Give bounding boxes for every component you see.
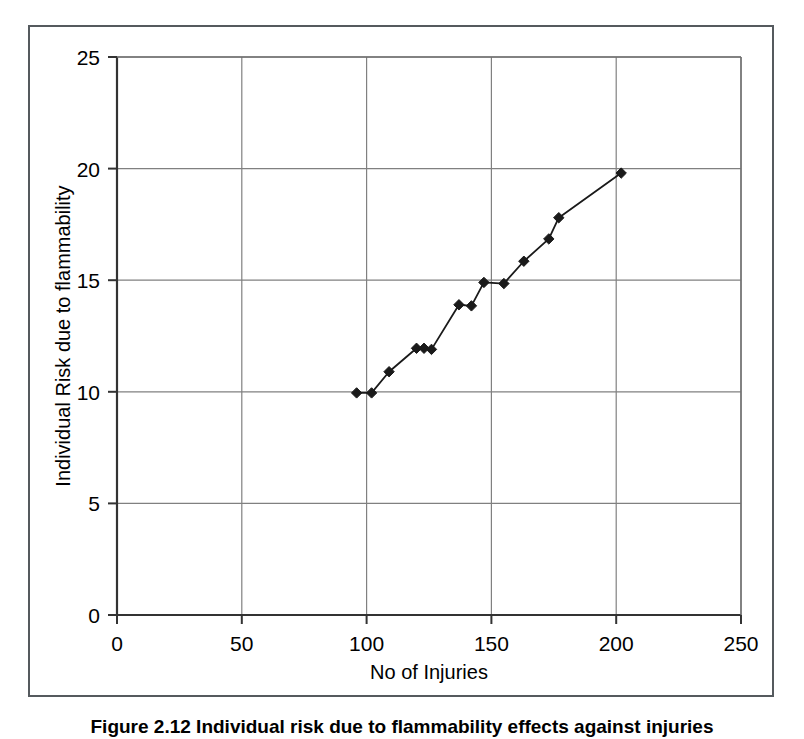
tick-label-y: 10: [77, 381, 100, 404]
tick-label-y: 5: [88, 492, 100, 515]
tick-label-x: 250: [723, 632, 758, 655]
y-axis-label: Individual Risk due to flammability: [52, 185, 74, 486]
data-markers: [351, 168, 626, 398]
figure-caption-text: Figure 2.12 Individual risk due to flamm…: [0, 716, 804, 738]
data-point-marker: [466, 301, 476, 311]
tick-label-x: 100: [349, 632, 384, 655]
axis-lines: [117, 57, 741, 615]
vertical-gridlines: [242, 57, 741, 615]
tick-label-y: 20: [77, 158, 100, 181]
horizontal-gridlines: [117, 57, 741, 503]
data-point-marker: [351, 388, 361, 398]
figure-caption: Figure 2.12 Individual risk due to flamm…: [0, 716, 804, 739]
y-axis-tick-labels: 0510152025: [77, 46, 100, 627]
tick-label-y: 0: [88, 604, 100, 627]
line-chart: 0510152025 050100150200250 Individual Ri…: [0, 0, 804, 739]
chart-figure: 0510152025 050100150200250 Individual Ri…: [0, 0, 804, 739]
tick-label-x: 50: [230, 632, 253, 655]
data-point-marker: [454, 300, 464, 310]
x-axis-tick-labels: 050100150200250: [111, 632, 758, 655]
tick-label-y: 15: [77, 269, 100, 292]
data-point-marker: [479, 277, 489, 287]
y-axis-ticks: [108, 57, 117, 615]
x-axis-ticks: [117, 615, 741, 624]
tick-label-x: 0: [111, 632, 123, 655]
data-point-marker: [426, 344, 436, 354]
tick-label-x: 200: [599, 632, 634, 655]
tick-label-y: 25: [77, 46, 100, 69]
tick-label-x: 150: [474, 632, 509, 655]
x-axis-label: No of Injuries: [370, 661, 488, 683]
